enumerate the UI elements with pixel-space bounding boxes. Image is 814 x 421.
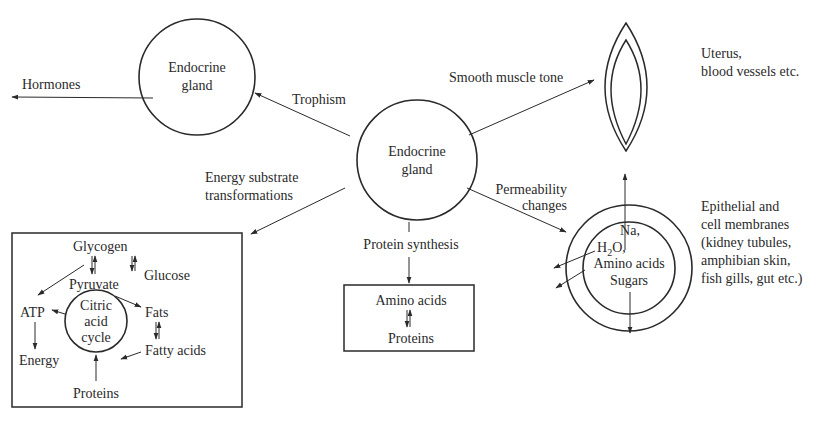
energy-label: Energy <box>19 353 59 368</box>
cycle-label-line3: cycle <box>81 330 111 345</box>
smooth-muscle-edge: Smooth muscle tone <box>449 70 594 135</box>
metabolism-box: Glycogen Glucose Pyruvate ATP Fats Citri… <box>12 233 242 407</box>
membrane-target-description: Epithelial and cell membranes (kidney tu… <box>701 199 803 287</box>
hormones-edge: Hormones <box>12 77 153 98</box>
central-endocrine-gland: Endocrine gland <box>357 100 477 220</box>
target-endocrine-gland: Endocrine gland <box>139 19 255 135</box>
permeability-label-line2: changes <box>522 198 567 213</box>
glucose-label: Glucose <box>144 268 190 283</box>
smooth-muscle-organ <box>605 23 647 151</box>
fats-label: Fats <box>145 305 168 320</box>
central-gland-label-line2: gland <box>401 162 432 177</box>
glycogen-label: Glycogen <box>73 239 127 254</box>
epithelial-label-line4: amphibian skin, <box>701 253 790 268</box>
membrane-amino-acids-label: Amino acids <box>593 256 664 271</box>
epithelial-label-line5: fish gills, gut etc.) <box>701 271 803 287</box>
uterus-label-line1: Uterus, <box>701 46 742 61</box>
smooth-muscle-arrow <box>469 80 594 135</box>
protein-box: Amino acids Proteins <box>344 285 474 351</box>
pyruvate-to-fats-arrow <box>115 296 141 307</box>
cycle-label-line2: acid <box>84 314 107 329</box>
central-gland-circle <box>357 100 477 220</box>
energy-substrate-label-line2: transformations <box>205 188 293 203</box>
permeability-edge: Permeability changes <box>467 182 567 232</box>
energy-substrate-label-line1: Energy substrate <box>205 170 298 185</box>
na-label: Na, <box>620 223 640 238</box>
atp-label: ATP <box>20 305 45 320</box>
cycle-to-atp-arrow <box>52 310 65 314</box>
protein-synthesis-label: Protein synthesis <box>363 237 458 252</box>
smooth-muscle-label: Smooth muscle tone <box>449 70 563 85</box>
organ-inner-wall <box>611 40 641 144</box>
target-gland-label-line2: gland <box>181 78 212 93</box>
epithelial-membrane: Na, H2O, Amino acids Sugars <box>554 174 692 333</box>
hormones-label: Hormones <box>22 77 80 92</box>
epithelial-label-line2: cell membranes <box>701 217 789 232</box>
uterus-label-line2: blood vessels etc. <box>701 64 799 79</box>
protein-box-proteins-label: Proteins <box>388 331 434 346</box>
trophism-edge: Trophism <box>255 92 350 136</box>
cycle-label-line1: Citric <box>80 298 112 313</box>
hormones-arrow <box>12 97 153 98</box>
proteins-label: Proteins <box>73 386 119 401</box>
fatty-acids-label: Fatty acids <box>145 343 206 358</box>
central-gland-label-line1: Endocrine <box>388 144 446 159</box>
sugars-label: Sugars <box>610 273 648 288</box>
fatty-acids-to-cycle-arrow <box>121 352 141 359</box>
epithelial-label-line1: Epithelial and <box>701 199 779 214</box>
energy-substrate-edge: Energy substrate transformations <box>205 170 345 234</box>
target-gland-label-line1: Endocrine <box>168 60 226 75</box>
h2o-transport-arrow <box>554 251 595 268</box>
amino-transport-arrow <box>556 270 585 288</box>
amino-acids-label: Amino acids <box>375 293 446 308</box>
protein-synthesis-edge: Protein synthesis <box>363 222 458 283</box>
permeability-label-line1: Permeability <box>495 182 567 197</box>
trophism-label: Trophism <box>292 92 346 107</box>
endocrine-actions-diagram: Endocrine gland Hormones Trophism Endocr… <box>0 0 814 421</box>
epithelial-label-line3: (kidney tubules, <box>701 235 791 251</box>
target-gland-circle <box>139 19 255 135</box>
